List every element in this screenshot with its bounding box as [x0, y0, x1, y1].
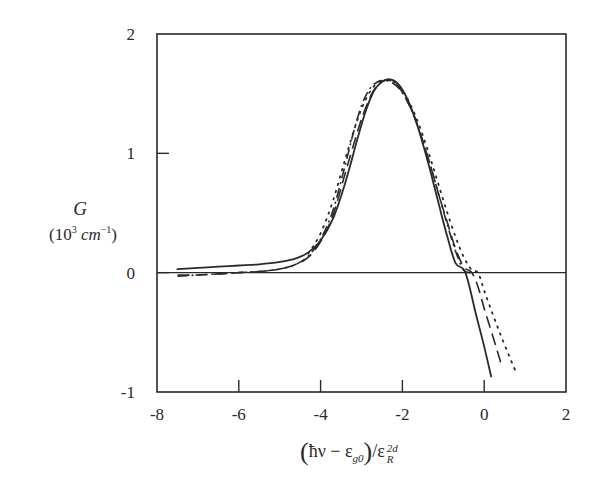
- y-tick-label: 2: [127, 25, 136, 44]
- series-solid-line: [177, 79, 491, 376]
- series-dashed-line: [177, 80, 501, 363]
- y-units-unit: cm: [81, 225, 101, 244]
- y-axis-ticks: -1012: [121, 25, 169, 402]
- x-label-numerator: ħν − ε: [309, 441, 353, 461]
- y-units-suffix: ): [111, 225, 117, 244]
- plot-frame: [157, 34, 566, 392]
- y-tick-label: 1: [127, 144, 136, 163]
- y-tick-label: 0: [127, 264, 136, 283]
- x-axis-ticks: -8-6-4-202: [150, 380, 570, 424]
- x-tick-label: -4: [314, 405, 329, 424]
- chart-canvas: -8-6-4-202 -1012: [0, 0, 596, 494]
- x-tick-label: -8: [150, 405, 164, 424]
- x-tick-label: -6: [232, 405, 246, 424]
- y-axis-label-symbol: G: [50, 198, 110, 220]
- x-label-sub: g0: [353, 452, 364, 464]
- y-units-prefix: (10: [49, 225, 72, 244]
- x-axis-label: (ħν − εg0)/ε2dR: [300, 437, 398, 467]
- plot-series-group: [177, 79, 515, 376]
- x-label-supsub: 2dR: [387, 443, 398, 465]
- x-label-open-paren: (: [300, 437, 309, 466]
- x-label-denominator: /ε: [372, 441, 385, 461]
- x-label-sub2: R: [387, 453, 394, 465]
- x-tick-label: -2: [395, 405, 409, 424]
- x-tick-label: 0: [480, 405, 489, 424]
- x-label-close-paren: ): [364, 437, 373, 466]
- y-tick-label: -1: [121, 383, 135, 402]
- series-dotted-line: [308, 80, 515, 371]
- y-axis-label-units: (103 cm−1): [18, 224, 148, 245]
- series-dash-dot-line: [177, 81, 471, 277]
- x-tick-label: 2: [562, 405, 571, 424]
- y-units-exp2: −1: [101, 224, 112, 235]
- y-units-exp: 3: [72, 224, 77, 235]
